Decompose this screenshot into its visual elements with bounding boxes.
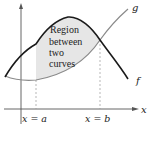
region-between-curves-diagram: x Region between two curves g f x = a x … — [0, 0, 151, 144]
region-label-line-2: between — [49, 36, 82, 47]
bound-b-label: x = b — [85, 113, 110, 124]
bound-a-label: x = a — [22, 113, 47, 124]
x-axis-arrow-icon — [132, 107, 139, 111]
region-label-line-3: two — [49, 47, 64, 58]
y-axis-arrow-icon — [19, 3, 23, 9]
region-label-line-1: Region — [50, 24, 79, 35]
curve-f-label: f — [135, 75, 142, 86]
curve-g-label: g — [132, 2, 138, 13]
region-label-line-4: curves — [49, 58, 75, 69]
x-axis-label: x — [141, 104, 147, 115]
